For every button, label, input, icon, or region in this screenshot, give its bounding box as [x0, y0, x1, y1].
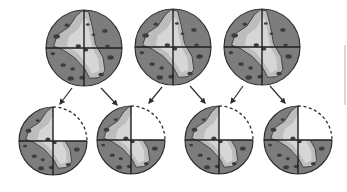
arrow: [190, 86, 205, 103]
diagram-svg: [0, 0, 347, 192]
sectioned-sphere: [264, 106, 332, 174]
arrow: [101, 88, 117, 105]
arrows-group: [60, 86, 285, 105]
bottom-row-sectioned-spheres: [19, 106, 332, 175]
sectioned-sphere: [97, 106, 165, 174]
sectioned-sphere: [19, 107, 87, 175]
sphere: [46, 10, 122, 86]
arrow: [231, 86, 243, 103]
missing-quadrant-dashed-outline: [131, 106, 165, 140]
arrow: [270, 86, 285, 103]
missing-quadrant-dashed-outline: [53, 107, 87, 141]
missing-quadrant-dashed-outline: [298, 106, 332, 140]
missing-quadrant-dashed-outline: [219, 106, 253, 140]
sectioned-sphere: [185, 106, 253, 174]
arrow: [149, 87, 162, 103]
top-row-spheres: [46, 9, 300, 86]
right-edge-artifact: [344, 45, 346, 105]
arrow: [60, 88, 72, 104]
sphere: [224, 9, 300, 85]
sphere: [135, 9, 211, 85]
